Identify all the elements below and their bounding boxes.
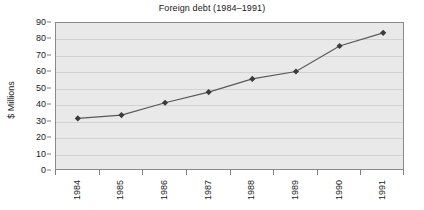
x-axis-tick-label-text: 1987 bbox=[203, 180, 213, 200]
x-axis-tick-mark bbox=[403, 170, 404, 175]
y-axis-tick-label: 80 bbox=[36, 33, 46, 43]
y-axis-tick-mark bbox=[47, 54, 51, 55]
data-point-marker bbox=[293, 68, 299, 74]
y-axis-tick-mark bbox=[47, 38, 51, 39]
x-axis-tick-mark bbox=[230, 170, 231, 175]
data-point-marker bbox=[118, 112, 124, 118]
x-axis-tick-mark bbox=[55, 170, 56, 175]
x-axis-tick-label: 1987 bbox=[203, 176, 213, 206]
y-axis-tick-label: 60 bbox=[36, 66, 46, 76]
y-axis-tick-label: 30 bbox=[36, 116, 46, 126]
y-axis-tick-mark bbox=[47, 71, 51, 72]
plot-area bbox=[55, 22, 404, 170]
data-point-marker bbox=[75, 115, 81, 121]
x-axis-tick-label: 1984 bbox=[72, 176, 82, 206]
x-axis-tick-label-text: 1990 bbox=[334, 180, 344, 200]
x-axis-tick-marks bbox=[55, 170, 404, 175]
x-axis-tick-mark bbox=[142, 170, 143, 175]
y-axis-tick-label: 90 bbox=[36, 17, 46, 27]
x-axis-tick-label-text: 1985 bbox=[115, 180, 125, 200]
x-axis-tick-label-text: 1986 bbox=[159, 180, 169, 200]
x-axis-tick-mark bbox=[360, 170, 361, 175]
x-axis-tick-mark bbox=[99, 170, 100, 175]
y-axis-tick-label: 50 bbox=[36, 83, 46, 93]
x-axis-tick-mark bbox=[273, 170, 274, 175]
data-point-marker bbox=[336, 43, 342, 49]
chart-title: Foreign debt (1984–1991) bbox=[0, 3, 424, 13]
x-axis-tick-labels: 19841985198619871988198919901991 bbox=[55, 176, 404, 208]
y-axis-tick-mark bbox=[47, 170, 51, 171]
y-axis-tick-mark bbox=[47, 22, 51, 23]
data-series-foreign-debt bbox=[56, 23, 405, 171]
x-axis-tick-label: 1989 bbox=[290, 176, 300, 206]
x-axis-tick-label: 1985 bbox=[115, 176, 125, 206]
x-axis-tick-label: 1986 bbox=[159, 176, 169, 206]
y-axis-tick-mark bbox=[47, 120, 51, 121]
y-axis-tick-mark bbox=[47, 153, 51, 154]
x-axis-tick-label: 1991 bbox=[377, 176, 387, 206]
y-axis-tick-mark bbox=[47, 87, 51, 88]
y-axis-tick-mark bbox=[47, 104, 51, 105]
x-axis-tick-mark bbox=[186, 170, 187, 175]
x-axis-tick-label-text: 1991 bbox=[377, 180, 387, 200]
x-axis-tick-label-text: 1984 bbox=[72, 180, 82, 200]
chart-container: Foreign debt (1984–1991) $ Millions 9080… bbox=[0, 0, 424, 210]
x-axis-tick-label-text: 1989 bbox=[290, 180, 300, 200]
data-point-marker bbox=[162, 100, 168, 106]
data-point-marker bbox=[380, 30, 386, 36]
y-axis-tick-mark bbox=[47, 137, 51, 138]
y-axis-tick-label: 20 bbox=[36, 132, 46, 142]
y-axis-tick-label: 10 bbox=[36, 149, 46, 159]
y-axis-tick-label: 40 bbox=[36, 99, 46, 109]
x-axis-tick-label: 1988 bbox=[246, 176, 256, 206]
y-axis-tick-label: 70 bbox=[36, 50, 46, 60]
x-axis-tick-label-text: 1988 bbox=[246, 180, 256, 200]
data-point-marker bbox=[206, 89, 212, 95]
y-axis-title: $ Millions bbox=[4, 50, 18, 150]
data-point-marker bbox=[249, 76, 255, 82]
y-axis-title-label: $ Millions bbox=[6, 81, 16, 119]
x-axis-tick-label: 1990 bbox=[334, 176, 344, 206]
x-axis-tick-mark bbox=[317, 170, 318, 175]
y-axis-tick-label: 0 bbox=[41, 165, 46, 175]
y-axis-tick-labels: 9080706050403020100 bbox=[18, 22, 51, 170]
